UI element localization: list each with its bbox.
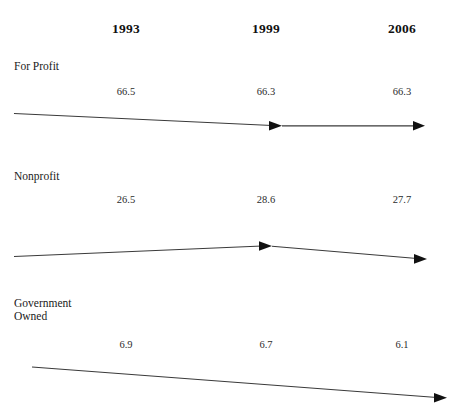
government-owned-arrowhead-2006 [434,393,447,403]
for-profit-segment-1993-1999 [14,114,272,126]
for-profit-arrowhead-2006 [413,121,425,131]
column-header-1993: 1993 [91,21,161,37]
value-nonprofit-1999: 28.6 [238,194,294,205]
value-government-owned-1999: 6.7 [238,339,294,350]
trend-arrow-government-owned [32,367,447,403]
row-label-nonprofit: Nonprofit [14,170,59,183]
value-nonprofit-1993: 26.5 [98,194,154,205]
row-label-government-owned: Government Owned [14,297,71,322]
trend-arrow-for-profit [14,114,425,131]
column-header-1999: 1999 [231,21,301,37]
nonprofit-segment-1999-2006 [272,246,417,258]
government-owned-segment-1993-2006 [32,367,437,398]
value-for-profit-1993: 66.5 [98,86,154,97]
nonprofit-segment-1993-1999 [14,246,262,257]
trend-arrow-nonprofit [14,241,427,264]
value-for-profit-1999: 66.3 [238,86,294,97]
value-government-owned-1993: 6.9 [98,339,154,350]
nonprofit-arrowhead-1999 [259,241,272,251]
nonprofit-arrowhead-2006 [414,254,427,264]
value-for-profit-2006: 66.3 [374,86,430,97]
for-profit-arrowhead-1999 [269,121,282,131]
value-government-owned-2006: 6.1 [374,339,430,350]
row-label-for-profit: For Profit [14,60,59,73]
trend-arrow-figure: 1993 1999 2006 For Profit 66.5 66.3 66.3… [0,0,457,404]
value-nonprofit-2006: 27.7 [374,194,430,205]
column-header-2006: 2006 [367,21,437,37]
